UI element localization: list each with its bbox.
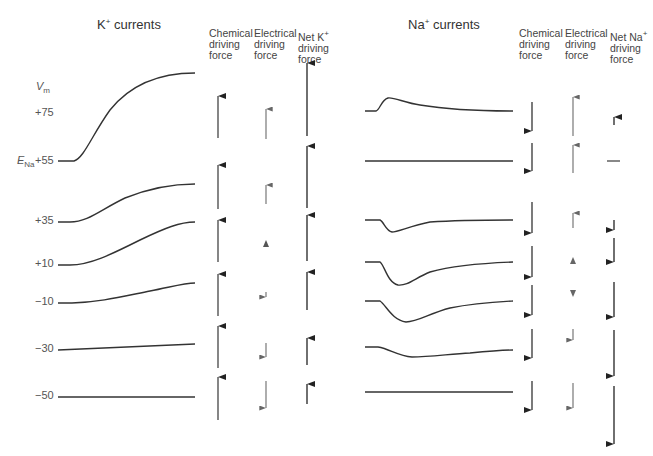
na-traces: [365, 98, 513, 392]
na-trace-10: [365, 262, 513, 285]
k-trace-10: [58, 283, 195, 303]
na-trace-35: [365, 220, 513, 232]
diagram-canvas: [0, 0, 653, 456]
k-trace-neg10: [58, 344, 195, 350]
arrow-up-icon: [570, 257, 576, 264]
k-trace-55: [58, 184, 195, 222]
k-traces: [58, 73, 195, 397]
k-trace-75: [58, 73, 195, 161]
na-trace-neg10: [365, 301, 513, 322]
na-trace-neg30: [365, 347, 513, 357]
arrow-up-icon: [263, 240, 269, 247]
na-trace-75: [365, 98, 513, 111]
arrow-down-icon: [570, 290, 576, 297]
k-trace-35: [58, 222, 195, 265]
